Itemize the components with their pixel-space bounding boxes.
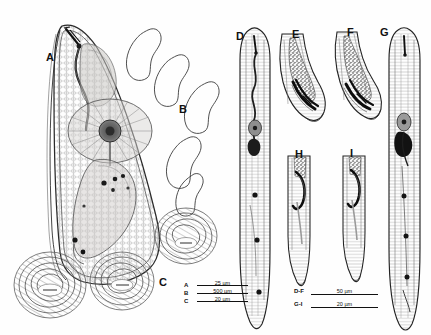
panel-label-d: D xyxy=(236,31,244,42)
panel-g-drawing xyxy=(389,28,420,330)
scale-key-a: A xyxy=(184,282,197,288)
scale-row-df: D-F 50 µm xyxy=(294,284,378,297)
scale-bar-c: 20 µm xyxy=(197,297,248,305)
panel-h-drawing xyxy=(288,156,310,286)
panel-label-h: H xyxy=(295,149,303,160)
panel-label-e: E xyxy=(292,29,299,40)
scale-value-df: 50 µm xyxy=(311,288,378,295)
panel-label-g: G xyxy=(380,27,389,38)
figure-plate: A B C D E F G H I A 25 µm B 500 µm C 20 … xyxy=(0,0,431,335)
scale-key-b: B xyxy=(184,290,197,296)
panel-label-a: A xyxy=(46,52,54,63)
panel-label-b: B xyxy=(179,104,187,115)
scale-value-gi: 20 µm xyxy=(311,301,378,308)
panel-f-drawing xyxy=(335,32,381,119)
scale-bar-gi: 20 µm xyxy=(311,300,378,308)
scale-value-a: 25 µm xyxy=(197,280,248,287)
scale-legend-abc: A 25 µm B 500 µm C 20 µm xyxy=(184,281,248,305)
panel-label-c: C xyxy=(159,277,167,288)
panel-e-drawing xyxy=(280,34,325,121)
panel-i-drawing xyxy=(343,156,365,282)
scale-value-b: 500 µm xyxy=(197,288,248,295)
scale-key-c: C xyxy=(184,298,197,304)
scale-bar-df: 50 µm xyxy=(311,287,378,295)
panel-label-f: F xyxy=(347,27,354,38)
panel-label-i: I xyxy=(350,148,353,159)
panel-b-drawing xyxy=(126,29,219,216)
scale-value-c: 20 µm xyxy=(197,296,248,303)
scale-row-gi: G-I 20 µm xyxy=(294,297,378,310)
scale-key-gi: G-I xyxy=(294,301,311,307)
panel-a-drawing xyxy=(47,25,159,284)
scale-legend-dfgi: D-F 50 µm G-I 20 µm xyxy=(294,284,378,310)
scale-key-df: D-F xyxy=(294,288,311,294)
scale-row-c: C 20 µm xyxy=(184,297,248,305)
